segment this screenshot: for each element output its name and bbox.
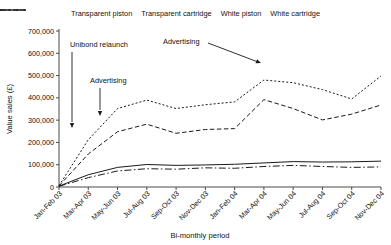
x-axis-tick-label: Nov-Dec 04 bbox=[353, 189, 386, 222]
y-axis-tick-label: 500,000 bbox=[28, 71, 54, 80]
annotations-group: Unibond relaunchAdvertisingAdvertising bbox=[70, 37, 261, 128]
x-axis-tick-label: Mar-Apr 04 bbox=[237, 189, 269, 221]
x-axis-tick-label: May-Jun 04 bbox=[265, 189, 298, 222]
x-axis-tick-label: Jan-Feb 03 bbox=[32, 189, 64, 221]
y-axis-tick-label: 100,000 bbox=[28, 160, 54, 169]
plot-area: 700,000600,000500,000400,000300,000200,0… bbox=[0, 0, 391, 245]
x-axis-tick-label: May-Jun 03 bbox=[90, 189, 123, 222]
x-axis-title: Bi-monthly period bbox=[170, 231, 229, 240]
series-line-transparent-cartridge bbox=[59, 161, 381, 186]
x-axis-tick-label: Jul-Aug 03 bbox=[121, 189, 152, 220]
annotation-arrow-advertising-1 bbox=[98, 111, 102, 116]
y-axis-tick-label: 0 bbox=[50, 183, 54, 192]
annotation-label-advertising-1: Advertising bbox=[90, 76, 127, 85]
x-axis: Jan-Feb 03Mar-Apr 03May-Jun 03Jul-Aug 03… bbox=[32, 187, 386, 222]
y-axis-tick-label: 600,000 bbox=[28, 49, 54, 58]
annotation-leader-advertising-2 bbox=[208, 43, 258, 62]
annotation-label-advertising-2: Advertising bbox=[163, 37, 200, 46]
x-axis-tick-label: Mar-Apr 03 bbox=[61, 189, 93, 221]
y-axis-title: Value sales (£) bbox=[5, 83, 14, 134]
y-axis-tick-label: 700,000 bbox=[28, 27, 54, 36]
x-axis-tick-label: Jul-Aug 04 bbox=[297, 189, 328, 220]
annotation-arrow-advertising-2 bbox=[256, 59, 261, 63]
annotation-arrow-unibond-relaunch bbox=[70, 123, 74, 128]
y-axis-tick-label: 300,000 bbox=[28, 116, 54, 125]
x-axis-tick-label: Nov-Dec 03 bbox=[177, 189, 210, 222]
line-chart: Transparent piston Transparent cartridge… bbox=[0, 0, 391, 245]
y-axis-tick-label: 400,000 bbox=[28, 93, 54, 102]
y-axis: 700,000600,000500,000400,000300,000200,0… bbox=[28, 27, 59, 192]
series-line-white-cartridge bbox=[59, 76, 381, 186]
series-line-transparent-piston bbox=[59, 165, 381, 186]
y-axis-tick-label: 200,000 bbox=[28, 138, 54, 147]
x-axis-tick-label: Jan-Feb 04 bbox=[207, 189, 239, 221]
data-series-group bbox=[59, 76, 381, 186]
annotation-label-unibond-relaunch: Unibond relaunch bbox=[70, 40, 128, 49]
